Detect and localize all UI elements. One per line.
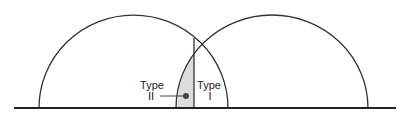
type-ii-dot	[183, 93, 189, 99]
type-ii-label-line2: II	[148, 90, 154, 102]
left-arc	[39, 15, 228, 108]
right-arc	[176, 15, 368, 108]
overlapping-arcs-diagram: Type II Type I	[0, 0, 403, 126]
type-i-label-line2: I	[208, 90, 211, 102]
